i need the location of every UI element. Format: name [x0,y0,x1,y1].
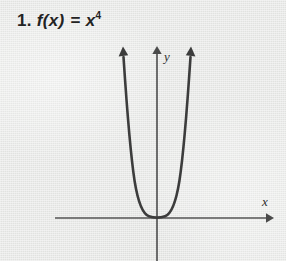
curve-right-arrowhead-icon [186,47,196,57]
curve-left-arrowhead-icon [119,47,129,57]
x-axis-arrowhead-icon [266,213,274,223]
y-axis-label: y [162,49,170,64]
quartic-graph: y x [0,0,286,261]
y-axis-arrowhead-icon [152,46,161,54]
figure-page: 1.f(x)=x4 y x [0,0,286,261]
x-axis-label: x [261,194,268,209]
